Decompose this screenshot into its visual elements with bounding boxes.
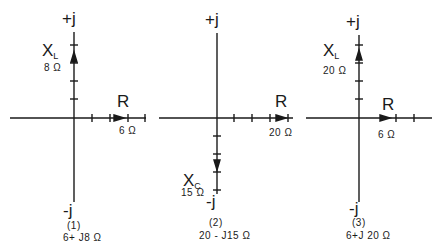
diagram-2-caption-number: (2) [209,218,223,228]
diagram-2-resistance-symbol: R [275,93,287,110]
diagram-3-resistance-symbol: R [382,96,394,113]
diagram-3-reactance-symbol: XL [323,42,339,61]
diagram-3-reactance-value: 20 Ω [323,66,346,76]
diagram-3-resistance-value: 6 Ω [378,130,395,140]
diagram-3-negative-j-label: -j [349,200,358,217]
diagram-2-resistance-arrow-icon [276,115,286,121]
diagram-2-reactance-value: 15 Ω [181,188,204,198]
diagram-1-caption-number: (1) [67,221,81,231]
diagram-3-reactance-arrow-icon [356,50,362,60]
diagram-3-caption-number: (3) [352,218,366,228]
diagram-3-resistance-arrow-icon [380,115,390,121]
diagram-1-resistance-symbol: R [117,93,129,110]
diagram-2-impedance: 20 - J15 Ω [199,231,250,241]
diagram-1-resistance-arrow-icon [114,115,124,121]
diagram-3-reactance-letter: X [323,41,334,60]
diagram-3-impedance: 6+J 20 Ω [346,231,391,241]
diagram-1-reactance-arrow-icon [71,52,77,62]
diagram-1-impedance: 6+ J8 Ω [63,233,102,243]
diagram-1-reactance-symbol: XL [42,42,58,61]
diagram-2-positive-j-label: +j [205,11,219,28]
diagram-1-resistance-value: 6 Ω [119,126,136,136]
diagram-2-axes [159,33,293,194]
diagram-3-reactance-subscript: L [334,51,339,61]
diagram-1-reactance-subscript: L [53,51,58,61]
diagram-1-reactance-value: 8 Ω [44,63,61,73]
diagram-3-positive-j-label: +j [346,13,360,30]
diagram-1-positive-j-label: +j [62,10,76,27]
diagram-2-reactance-arrow-icon [214,160,220,170]
diagram-2-resistance-value: 20 Ω [269,128,292,138]
diagram-1-axes [10,32,146,202]
diagram-2-negative-j-label: -j [206,193,215,210]
diagram-1-negative-j-label: -j [63,202,72,219]
diagram-1-reactance-letter: X [42,41,53,60]
